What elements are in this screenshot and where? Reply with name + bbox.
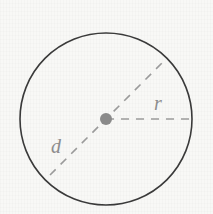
diameter-label: d [51,135,62,157]
radius-label: r [154,92,162,114]
center-point-dot [100,113,112,125]
diagram-canvas: r d [0,0,213,214]
circle-diagram: r d [0,0,213,214]
